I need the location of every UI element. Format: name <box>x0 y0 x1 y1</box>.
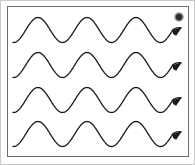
wave-diagram <box>0 0 195 165</box>
dot-glyph-icon <box>174 12 184 22</box>
wave-path-2 <box>13 53 181 78</box>
wave-path-4 <box>13 122 181 147</box>
wave-path-3 <box>13 88 181 113</box>
wave-path-1 <box>13 18 181 43</box>
waves-group <box>13 18 181 147</box>
figure-root <box>0 0 195 165</box>
arrowheads-group <box>172 27 182 140</box>
